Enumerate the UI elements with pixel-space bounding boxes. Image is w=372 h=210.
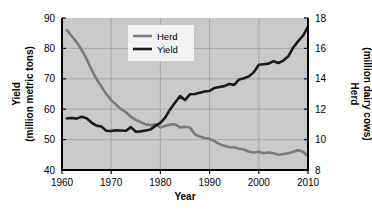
x-axis-title: Year (174, 191, 195, 202)
legend: HerdYield (128, 25, 194, 61)
xtick-label: 1980 (149, 177, 172, 188)
y-axis-left-title-line2: (million metric tons) (24, 46, 35, 142)
ytick-label-right: 8 (315, 165, 321, 176)
ytick-label-left: 80 (44, 43, 56, 54)
ytick-label-left: 90 (44, 13, 56, 24)
xtick-label: 1990 (198, 177, 221, 188)
ytick-label-right: 10 (315, 134, 327, 145)
ytick-label-left: 40 (44, 165, 56, 176)
ytick-label-left: 50 (44, 134, 56, 145)
xtick-label: 1960 (51, 177, 74, 188)
ytick-label-right: 12 (315, 104, 327, 115)
y-axis-right-title-line2: (million dairy cows) (362, 47, 372, 140)
ytick-label-right: 18 (315, 13, 327, 24)
y-axis-right-title-line1: Herd (349, 83, 360, 106)
xtick-label: 1970 (100, 177, 123, 188)
y-axis-left-title-line1: Yield (11, 82, 22, 106)
ytick-label-left: 70 (44, 73, 56, 84)
xtick-label: 2010 (297, 177, 320, 188)
ytick-label-left: 60 (44, 104, 56, 115)
legend-label-herd: Herd (157, 31, 178, 42)
ytick-label-right: 16 (315, 43, 327, 54)
dairy-yield-herd-chart: 1960197019801990200020104050607080908101… (0, 0, 372, 210)
xtick-label: 2000 (248, 177, 271, 188)
ytick-label-right: 14 (315, 73, 327, 84)
legend-label-yield: Yield (157, 44, 178, 55)
chart-canvas: 1960197019801990200020104050607080908101… (0, 0, 372, 210)
